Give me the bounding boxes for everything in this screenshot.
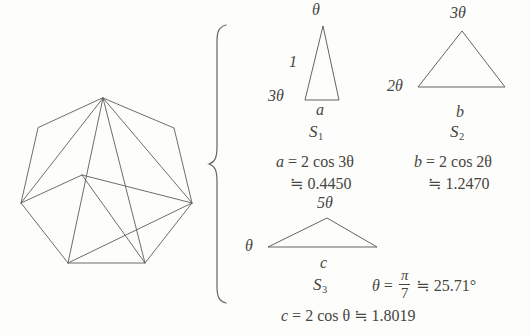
s1-formula-lhs: a (276, 153, 284, 170)
s1-subscript: 1 (318, 131, 324, 142)
pi-over-seven-fraction: π7 (399, 268, 410, 302)
chord-v5-v1 (21, 175, 82, 203)
s2-formula-lhs: b (414, 153, 422, 170)
s2-name-label: S2 (450, 123, 464, 142)
s1-letter: S (309, 122, 318, 141)
degree-symbol: ° (470, 277, 476, 294)
s2-formula: b = 2 cos 2θ (414, 154, 492, 170)
s2-base-label: b (456, 104, 464, 120)
s3-approx-symbol: ≒ (354, 307, 367, 324)
fraction-denominator: 7 (399, 285, 410, 301)
triangle-s3-shape (262, 212, 384, 256)
s3-base-label: c (320, 255, 327, 271)
triangle-s2-shape (412, 25, 512, 95)
s1-formula: a = 2 cos 3θ (276, 154, 354, 170)
chord-v2-v3 (68, 203, 192, 263)
s2-letter: S (450, 122, 459, 141)
theta-approx-symbol: ≒ (416, 277, 429, 294)
heptagon-diagram (0, 80, 210, 280)
s3-letter: S (313, 275, 322, 294)
heptagon-outline (21, 98, 192, 263)
s1-base-label: a (316, 102, 324, 118)
s3-apex-angle-label: 5θ (317, 195, 333, 211)
triangle-s1-shape (296, 20, 348, 108)
s1-base-angle-label: 3θ (268, 88, 284, 104)
s1-approx-symbol: ≒ (290, 175, 303, 192)
s1-formula-rhs: 2 cos 3θ (301, 153, 354, 170)
s2-formula-rhs: 2 cos 2θ (439, 153, 492, 170)
s1-approx: ≒ 0.4450 (290, 176, 351, 192)
s3-formula-lhs: c (281, 307, 288, 324)
theta-equals: = (384, 277, 393, 294)
large-left-brace (206, 22, 232, 307)
s3-name-label: S3 (313, 276, 327, 295)
s2-approx-value: 1.2470 (445, 175, 489, 192)
theta-approx-value: 25.71 (434, 277, 470, 294)
s1-approx-value: 0.4450 (307, 175, 351, 192)
s3-formula-rhs: 2 cos θ (305, 307, 350, 324)
theta-symbol: θ (372, 277, 380, 294)
s2-base-angle-label: 2θ (387, 78, 403, 94)
s2-apex-angle-label: 3θ (450, 5, 466, 21)
s1-apex-angle-label: θ (312, 2, 320, 18)
s3-base-angle-label: θ (245, 238, 253, 254)
s1-side-label: 1 (289, 54, 297, 70)
fraction-numerator: π (399, 268, 410, 285)
s3-approx-value: 1.8019 (372, 307, 416, 324)
s3-formula: c = 2 cos θ ≒ 1.8019 (281, 308, 416, 324)
s1-name-label: S1 (309, 123, 323, 142)
figure-canvas: θ 1 3θ a S1 a = 2 cos 3θ ≒ 0.4450 3θ 2θ … (0, 0, 530, 336)
s3-subscript: 3 (322, 284, 328, 295)
theta-value-expression: θ = π7 ≒ 25.71° (372, 268, 476, 302)
s2-approx: ≒ 1.2470 (428, 176, 489, 192)
s2-approx-symbol: ≒ (428, 175, 441, 192)
s2-subscript: 2 (459, 131, 465, 142)
